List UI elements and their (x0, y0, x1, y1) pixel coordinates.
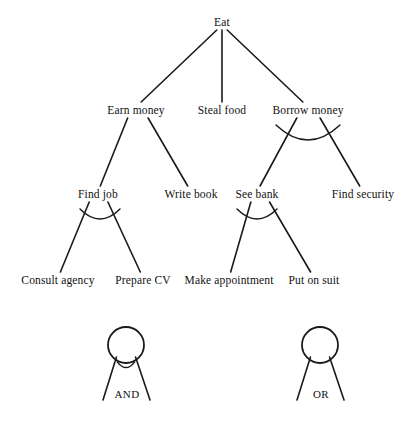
or-symbol-icon (0, 0, 412, 429)
legend-label-or-symbol: OR (313, 388, 329, 400)
and-or-tree-diagram: EatEarn moneySteal foodBorrow moneyFind … (0, 0, 412, 429)
